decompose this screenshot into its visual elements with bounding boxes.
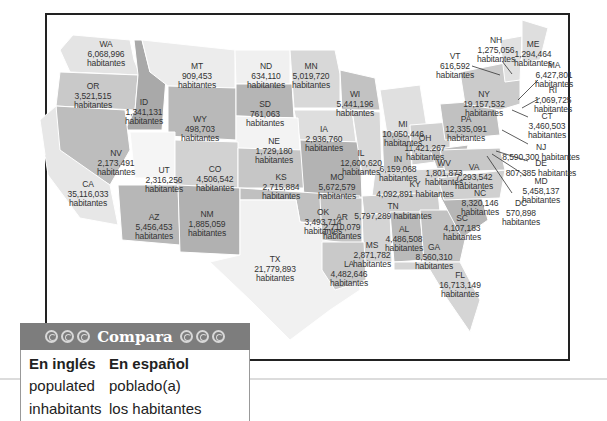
state-label-mn: MN5,019,720habitantes — [292, 62, 330, 91]
state-label-ca: CA35,116,033habitantes — [68, 180, 109, 209]
unit-label: habitantes — [196, 184, 234, 194]
spiral-icon — [180, 330, 193, 343]
spiral-icon — [196, 330, 209, 343]
compara-table: En inglés En español populated poblado(a… — [20, 350, 250, 421]
unit-label: habitantes — [255, 156, 293, 166]
state-label-or: OR3,521,515habitantes — [74, 82, 112, 111]
state-label-la: LA4,482,646habitantes — [330, 260, 368, 289]
unit-label: habitantes — [246, 119, 284, 129]
state-label-nd: ND634,110habitantes — [247, 62, 285, 91]
state-population: 5,797,289 habitantes — [354, 212, 431, 222]
unit-label: habitantes — [125, 117, 163, 127]
state-label-co: CO4,506,542habitantes — [196, 165, 234, 194]
compara-header: Compara — [20, 323, 250, 350]
state-label-nh: NH1,275,056habitantes — [477, 36, 515, 65]
unit-label: habitantes — [305, 144, 343, 154]
state-label-wi: WI5,441,196habitantes — [336, 90, 374, 119]
state-label-mt: MT909,453habitantes — [178, 62, 216, 91]
unit-label: habitantes — [455, 182, 493, 192]
unit-label: habitantes — [247, 81, 285, 91]
unit-label: habitantes — [436, 71, 474, 81]
english-term: populated — [29, 376, 109, 398]
spanish-term: poblado(a) — [109, 376, 249, 398]
english-term: inhabitants — [29, 399, 109, 421]
unit-label: habitantes — [463, 109, 505, 119]
state-label-tn: TN5,797,289 habitantes — [354, 202, 431, 221]
state-label-pa: PA12,335,091habitantes — [445, 115, 487, 144]
unit-label: habitantes — [439, 290, 481, 300]
state-label-tx: TX21,779,893habitantes — [254, 255, 296, 284]
state-label-nc: NC8,320,146habitantes — [461, 189, 499, 218]
spanish-term: los habitantes — [109, 399, 249, 421]
state-label-vt: VT616,592habitantes — [436, 52, 474, 81]
spiral-icon — [212, 330, 225, 343]
col-header-english: En inglés — [29, 354, 109, 376]
unit-label: habitantes — [68, 199, 109, 209]
state-label-ga: GA8,560,310habitantes — [415, 243, 453, 272]
state-label-az: AZ5,456,453habitantes — [135, 213, 173, 242]
spiral-icon — [61, 330, 74, 343]
state-label-ut: UT2,316,256habitantes — [145, 166, 183, 195]
state-label-wy: WY498,703habitantes — [181, 115, 219, 144]
unit-label: habitantes — [262, 192, 300, 202]
unit-label: habitantes — [178, 81, 216, 91]
compara-title: Compara — [97, 328, 173, 346]
state-label-sd: SD761,063habitantes — [246, 100, 284, 129]
unit-label: habitantes — [135, 232, 173, 242]
state-population: 4,092,891 habitantes — [376, 190, 453, 200]
state-label-dc: DC570,898habitantes — [502, 199, 540, 228]
unit-label: habitantes — [477, 55, 515, 65]
unit-label: habitantes — [330, 279, 368, 289]
state-label-wa: WA6,068,996habitantes — [87, 40, 125, 69]
unit-label: habitantes — [181, 134, 219, 144]
state-label-fl: FL16,713,149habitantes — [439, 271, 481, 300]
state-label-id: ID1,341,131habitantes — [125, 98, 163, 127]
state-label-ne: NE1,729,180habitantes — [255, 137, 293, 166]
unit-label: habitantes — [188, 229, 226, 239]
state-label-ct: CT3,460,503habitantes — [528, 112, 566, 141]
state-label-ky: KY4,092,891 habitantes — [376, 180, 453, 199]
state-label-nm: NM1,885,059habitantes — [188, 210, 226, 239]
state-label-va: VA7,293,542habitantes — [455, 163, 493, 192]
state-label-il: IL12,600,620habitantes — [340, 149, 382, 178]
unit-label: habitantes — [502, 218, 540, 228]
unit-label: habitantes — [74, 101, 112, 111]
unit-label: habitantes — [145, 185, 183, 195]
state-label-sc: SC4,107,183habitantes — [443, 214, 481, 243]
state-label-ri: RI1,069,725habitantes — [534, 86, 572, 115]
state-label-ia: IA2,936,760habitantes — [305, 125, 343, 154]
spiral-icon — [45, 330, 58, 343]
state-label-nv: NV2,173,491habitantes — [97, 149, 135, 178]
unit-label: habitantes — [336, 109, 374, 119]
unit-label: habitantes — [318, 192, 356, 202]
unit-label: habitantes — [528, 131, 566, 141]
col-header-spanish: En español — [109, 354, 249, 376]
state-label-ks: KS2,715,884habitantes — [262, 173, 300, 202]
unit-label: habitantes — [97, 168, 135, 178]
unit-label: habitantes — [292, 81, 330, 91]
unit-label: habitantes — [254, 274, 296, 284]
unit-label: habitantes — [461, 208, 499, 218]
unit-label: habitantes — [445, 134, 487, 144]
unit-label: habitantes — [87, 59, 125, 69]
unit-label: habitantes — [443, 233, 481, 243]
spiral-icon — [77, 330, 90, 343]
state-label-ny: NY19,157,532habitantes — [463, 90, 505, 119]
compara-box: Compara En inglés En español populated p… — [20, 323, 250, 417]
unit-label: habitantes — [340, 168, 382, 178]
